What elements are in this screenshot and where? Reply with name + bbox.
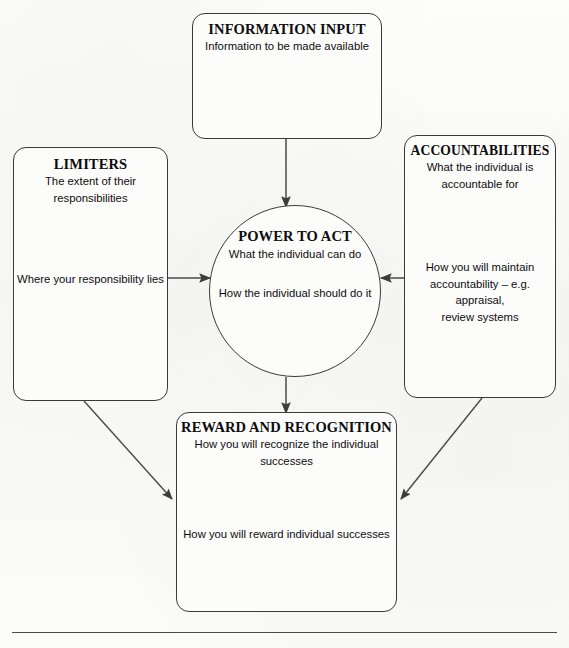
node-information-input-line-1: Information to be made available: [193, 39, 381, 54]
node-power-to-act[interactable]: POWER TO ACT What the individual can do …: [209, 205, 381, 377]
node-reward-recognition-line-2: successes: [177, 454, 396, 469]
node-accountabilities-line-2: accountable for: [405, 177, 555, 192]
node-accountabilities-title: ACCOUNTABILITIES: [405, 143, 555, 158]
node-limiters[interactable]: LIMITERS The extent of their responsibil…: [13, 147, 168, 401]
node-power-to-act-line-1: What the individual can do: [210, 247, 380, 262]
node-information-input-title: INFORMATION INPUT: [193, 21, 381, 37]
footer-rule: [12, 632, 557, 633]
node-accountabilities-lower-line-1: How you will maintain: [407, 260, 553, 275]
node-accountabilities-line-1: What the individual is: [405, 160, 555, 175]
node-reward-recognition-title: REWARD AND RECOGNITION: [177, 419, 396, 435]
diagram-page: INFORMATION INPUT Information to be made…: [0, 0, 569, 648]
node-limiters-title: LIMITERS: [14, 156, 167, 172]
arrow-accountabilities-to-reward-recognition: [401, 398, 482, 499]
node-accountabilities-lower-line-3: review systems: [407, 310, 553, 325]
node-limiters-line-2: responsibilities: [14, 191, 167, 206]
arrow-limiters-to-reward-recognition: [84, 401, 172, 499]
node-accountabilities-lower-line-2: accountability – e.g. appraisal,: [407, 277, 553, 308]
node-accountabilities[interactable]: ACCOUNTABILITIES What the individual is …: [404, 135, 556, 398]
node-reward-recognition[interactable]: REWARD AND RECOGNITION How you will reco…: [176, 412, 397, 612]
node-reward-recognition-lower-line-1: How you will reward individual successes: [181, 527, 392, 542]
node-power-to-act-title: POWER TO ACT: [210, 228, 380, 244]
node-reward-recognition-line-1: How you will recognize the individual: [177, 437, 396, 452]
node-limiters-line-1: The extent of their: [14, 174, 167, 189]
node-information-input[interactable]: INFORMATION INPUT Information to be made…: [192, 13, 382, 139]
node-power-to-act-line-2: How the individual should do it: [210, 286, 380, 301]
node-limiters-lower-line-1: Where your responsibility lies: [14, 272, 167, 287]
